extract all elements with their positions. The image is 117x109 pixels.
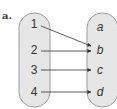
codomain-item-a: a [97,21,104,33]
codomain-item-c: c [97,64,103,76]
domain-item-4: 4 [31,86,38,98]
domain-item-1: 1 [31,18,38,30]
domain-item-3: 3 [31,64,38,76]
domain-item-2: 2 [31,44,38,56]
codomain-item-b: b [97,44,104,56]
codomain-item-d: d [97,86,104,98]
